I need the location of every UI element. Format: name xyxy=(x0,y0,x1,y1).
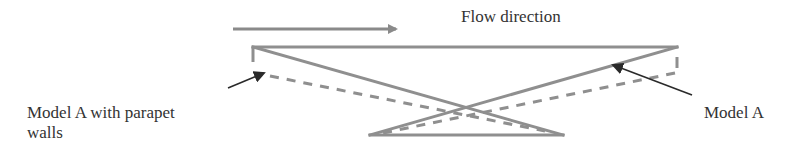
model-a-outline xyxy=(253,47,677,135)
pointer-arrow-model-a-icon xyxy=(613,65,692,95)
flow-direction-label: Flow direction xyxy=(461,7,561,27)
model-a-parapet-label-line1: Model A with parapet xyxy=(27,103,175,122)
model-a-parapet-outline xyxy=(253,48,677,133)
pointer-arrow-parapet-icon xyxy=(228,73,264,88)
model-a-right-diagonal xyxy=(370,47,677,135)
model-a-parapet-label-line2: walls xyxy=(27,123,63,142)
model-a-left-diagonal xyxy=(253,47,563,135)
model-a-label: Model A xyxy=(704,103,764,123)
model-a-parapet-label: Model A with parapet walls xyxy=(27,103,232,143)
